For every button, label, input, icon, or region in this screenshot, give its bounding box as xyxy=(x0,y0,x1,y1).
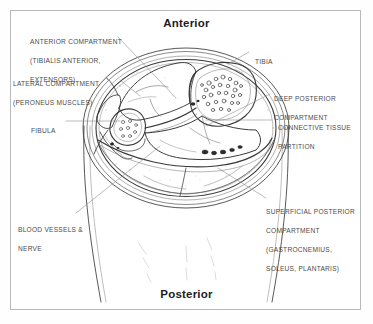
orientation-label-posterior: Posterior xyxy=(0,288,373,300)
label-fibula-line1: Fibula xyxy=(31,126,71,135)
label-fibula: Fibula xyxy=(31,117,71,145)
leader-tibia xyxy=(228,52,249,64)
tibia-trabeculae xyxy=(201,75,243,112)
leader-blood-vessels xyxy=(76,146,160,213)
label-tibia-line1: Tibia xyxy=(255,57,305,66)
label-tibia: Tibia xyxy=(255,48,305,76)
label-connective-tissue-line1: Connective Tissue xyxy=(278,123,372,132)
label-superficial-posterior-line4: Soleus, Plantaris) xyxy=(266,264,368,273)
shaft-texture xyxy=(138,238,216,282)
label-lateral-compartment-line2: (Peroneus Muscles) xyxy=(13,98,135,107)
label-anterior-compartment-line2: (Tibialis Anterior, xyxy=(30,56,150,65)
label-superficial-posterior-compartment: Superficial Posterior Compartment (Gastr… xyxy=(266,198,368,282)
leg-shaft-outline xyxy=(84,126,289,302)
label-blood-vessels-line1: Blood Vessels & xyxy=(18,225,128,234)
label-lateral-compartment: Lateral Compartment (Peroneus Muscles) xyxy=(13,70,135,117)
label-lateral-compartment-line1: Lateral Compartment xyxy=(13,79,135,88)
posterior-vessels xyxy=(202,145,242,155)
label-superficial-posterior-line2: Compartment xyxy=(266,226,368,235)
label-blood-vessels-line2: Nerve xyxy=(18,244,128,253)
label-superficial-posterior-line3: (Gastrocnemius, xyxy=(266,245,368,254)
figure-canvas: Anterior Posterior Anterior Compartment … xyxy=(0,0,373,324)
transverse-septum xyxy=(98,138,273,172)
label-superficial-posterior-line1: Superficial Posterior xyxy=(266,207,368,216)
anterior-vessels xyxy=(191,100,200,106)
tibia-bone xyxy=(189,62,256,126)
label-deep-posterior-line1: Deep Posterior xyxy=(274,94,370,103)
fibula-trabeculae xyxy=(120,120,138,138)
label-anterior-compartment-line1: Anterior Compartment xyxy=(30,37,150,46)
label-blood-vessels-nerve: Blood Vessels & Nerve xyxy=(18,216,128,263)
label-connective-tissue-partition: Connective Tissue Partition xyxy=(278,114,372,161)
label-connective-tissue-line2: Partition xyxy=(278,142,372,151)
